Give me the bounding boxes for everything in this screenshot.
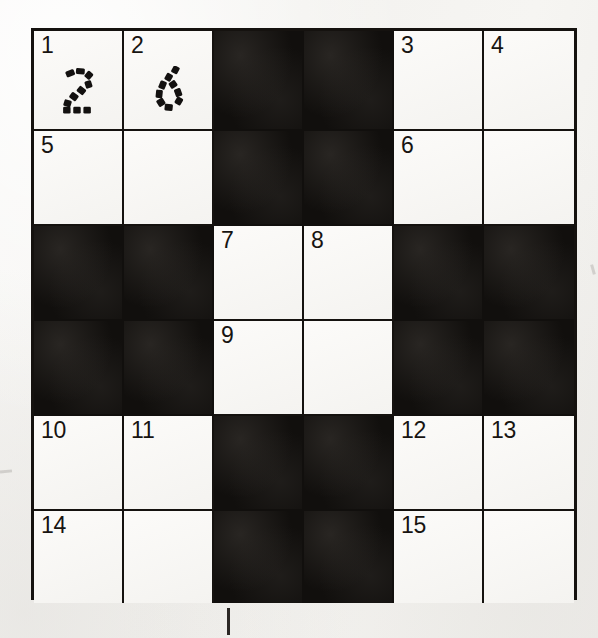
- grid-cell[interactable]: 8: [304, 226, 394, 321]
- crossword-grid: 123456789101112131415: [31, 28, 577, 600]
- scan-smudge-right: [590, 264, 596, 274]
- clue-number: 6: [401, 133, 414, 158]
- grid-cell-blocked: [34, 226, 124, 321]
- grid-cell-blocked: [214, 131, 304, 226]
- scan-smudge-left: [0, 469, 12, 473]
- cell-answer: [34, 53, 122, 127]
- grid-cell[interactable]: 1: [34, 31, 124, 131]
- grid-cell-blocked: [484, 226, 574, 321]
- grid-cell[interactable]: 10: [34, 416, 124, 511]
- grid-cell[interactable]: 13: [484, 416, 574, 511]
- crossword-grid-container: 123456789101112131415: [31, 28, 577, 600]
- grid-cell-blocked: [304, 131, 394, 226]
- cell-answer: [124, 53, 212, 127]
- grid-cell[interactable]: 6: [394, 131, 484, 226]
- grid-cell-blocked: [394, 321, 484, 416]
- grid-cell[interactable]: [484, 511, 574, 603]
- registration-tick: [227, 608, 230, 635]
- grid-cell[interactable]: [484, 131, 574, 226]
- grid-cell-blocked: [214, 31, 304, 131]
- grid-cell-blocked: [304, 31, 394, 131]
- grid-cell[interactable]: [124, 131, 214, 226]
- grid-cell-blocked: [124, 226, 214, 321]
- clue-number: 11: [131, 418, 154, 443]
- grid-cell[interactable]: [304, 321, 394, 416]
- grid-cell-blocked: [394, 226, 484, 321]
- clue-number: 9: [221, 323, 234, 348]
- grid-cell-blocked: [214, 416, 304, 511]
- grid-cell[interactable]: 9: [214, 321, 304, 416]
- clue-number: 13: [491, 418, 516, 443]
- grid-cell[interactable]: 5: [34, 131, 124, 226]
- grid-cell[interactable]: 2: [124, 31, 214, 131]
- grid-cell[interactable]: 12: [394, 416, 484, 511]
- grid-cell-blocked: [34, 321, 124, 416]
- grid-cell[interactable]: [124, 511, 214, 603]
- grid-cell-blocked: [484, 321, 574, 416]
- clue-number: 12: [401, 418, 426, 443]
- grid-cell-blocked: [124, 321, 214, 416]
- grid-cell[interactable]: 15: [394, 511, 484, 603]
- grid-cell[interactable]: 4: [484, 31, 574, 131]
- grid-cell[interactable]: 7: [214, 226, 304, 321]
- grid-cell[interactable]: 14: [34, 511, 124, 603]
- clue-number: 14: [41, 513, 66, 538]
- clue-number: 3: [401, 33, 414, 58]
- grid-cell-blocked: [304, 416, 394, 511]
- clue-number: 4: [491, 33, 504, 58]
- clue-number: 8: [311, 228, 324, 253]
- grid-cell-blocked: [304, 511, 394, 603]
- clue-number: 15: [401, 513, 426, 538]
- grid-cell[interactable]: 11: [124, 416, 214, 511]
- clue-number: 5: [41, 133, 54, 158]
- grid-cell[interactable]: 3: [394, 31, 484, 131]
- grid-cell-blocked: [214, 511, 304, 603]
- clue-number: 7: [221, 228, 234, 253]
- clue-number: 10: [41, 418, 66, 443]
